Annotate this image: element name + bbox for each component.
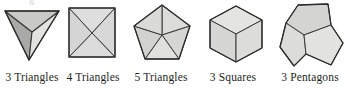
five-triangles-figure (130, 2, 194, 68)
three-squares-figure (206, 2, 266, 68)
three-squares-label: 3 Squares (202, 71, 264, 84)
three-pentagons-label: 3 Pentagons (272, 71, 348, 84)
three-triangles-label: 3 Triangles (0, 71, 64, 84)
three-pentagons-figure (276, 2, 346, 68)
platonic-solid-vertex-figure-row: 3 Triangles 4 Triangles (0, 0, 348, 95)
four-triangles-label: 4 Triangles (62, 71, 124, 84)
five-triangles-label: 5 Triangles (128, 71, 194, 84)
four-triangles-figure (66, 2, 118, 68)
three-triangles-figure (2, 2, 62, 68)
